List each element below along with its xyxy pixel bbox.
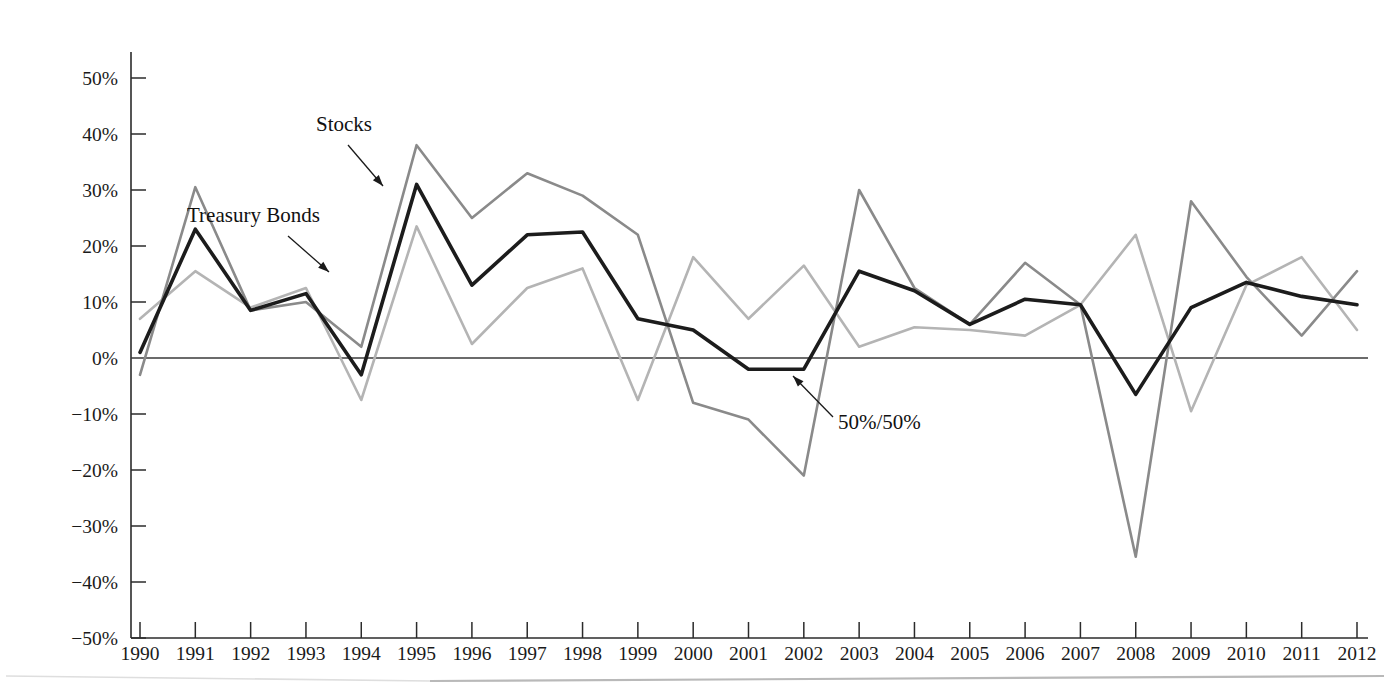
x-tick-label: 2000 (674, 643, 713, 664)
annotation-label-stocks: Stocks (316, 112, 372, 136)
y-tick-label: 50% (82, 68, 118, 89)
x-tick-label: 2012 (1338, 643, 1377, 664)
y-tick-label: 20% (82, 236, 118, 257)
x-tick-label: 2002 (784, 643, 823, 664)
x-tick-label: 2007 (1061, 643, 1100, 664)
y-tick-label: 10% (82, 292, 118, 313)
x-tick-label: 1994 (342, 643, 381, 664)
x-tick-label: 1991 (176, 643, 215, 664)
y-axis-tick-labels: 50%40%30%20%10%0%−10%−20%−30%−40%−50% (71, 68, 118, 649)
x-tick-label: 1998 (563, 643, 602, 664)
x-tick-label: 1999 (618, 643, 657, 664)
x-tick-label: 2009 (1172, 643, 1211, 664)
y-tick-label: −30% (71, 516, 118, 537)
returns-line-chart: 50%40%30%20%10%0%−10%−20%−30%−40%−50% 19… (0, 0, 1388, 698)
series-line-stocks (140, 145, 1357, 557)
x-tick-label: 2010 (1227, 643, 1266, 664)
footer-rule-faint (6, 676, 430, 681)
y-tick-label: 40% (82, 124, 118, 145)
y-tick-label: 30% (82, 180, 118, 201)
x-tick-label: 2011 (1283, 643, 1321, 664)
x-tick-label: 1997 (508, 643, 547, 664)
x-tick-label: 1996 (452, 643, 491, 664)
x-tick-label: 2006 (1006, 643, 1045, 664)
y-tick-label: 0% (92, 348, 118, 369)
annotation-label-treasury-bonds: Treasury Bonds (187, 203, 320, 227)
x-tick-label: 1993 (286, 643, 325, 664)
y-tick-label: −20% (71, 460, 118, 481)
series-line-50-50 (140, 184, 1357, 394)
x-tick-label: 2003 (840, 643, 879, 664)
x-tick-label: 2005 (950, 643, 989, 664)
annotation-group: StocksTreasury Bonds50%/50% (187, 112, 921, 434)
x-tick-label: 2004 (895, 643, 934, 664)
y-tick-label: −40% (71, 572, 118, 593)
x-axis-tick-labels: 1990199119921993199419951996199719981999… (121, 643, 1377, 664)
y-tick-label: −50% (71, 628, 118, 649)
x-axis-tick-marks (140, 622, 1357, 638)
x-tick-label: 1990 (121, 643, 160, 664)
x-tick-label: 1992 (231, 643, 270, 664)
series-lines-group (140, 145, 1357, 557)
chart-container: 50%40%30%20%10%0%−10%−20%−30%−40%−50% 19… (0, 0, 1388, 698)
x-tick-label: 2008 (1116, 643, 1155, 664)
x-tick-label: 1995 (397, 643, 436, 664)
y-tick-label: −10% (71, 404, 118, 425)
annotation-label-50-50: 50%/50% (838, 410, 921, 434)
footer-rule (430, 676, 1384, 681)
x-tick-label: 2001 (729, 643, 768, 664)
